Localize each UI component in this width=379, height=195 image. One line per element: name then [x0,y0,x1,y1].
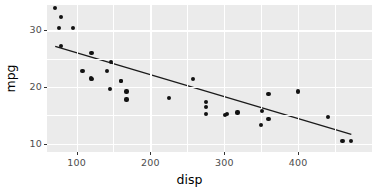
data-point [124,89,128,93]
x-tick-label: 300 [204,157,244,168]
y-tick-mark [44,30,47,31]
x-tick-mark [298,152,299,155]
x-tick-mark [77,152,78,155]
gridline-vertical-major [77,5,78,152]
gridline-vertical-major [150,5,151,152]
data-point [89,51,93,55]
data-point [260,109,264,113]
gridline-horizontal-minor [47,59,372,60]
gridline-vertical-major [224,5,225,152]
x-tick-label: 400 [278,157,318,168]
data-point [167,96,171,100]
y-tick-label: 30 [20,24,42,35]
x-tick-mark [150,152,151,155]
data-point [340,139,344,143]
regression-line-segment [55,46,351,134]
data-point [105,69,109,73]
data-point [59,44,63,48]
data-point [57,26,61,30]
x-tick-label: 100 [57,157,97,168]
y-tick-mark [44,87,47,88]
plot-panel [47,5,372,152]
y-tick-label: 20 [20,81,42,92]
gridline-horizontal-major [47,30,372,31]
data-point [124,97,128,101]
data-point [59,15,63,19]
data-point [266,117,270,121]
x-axis-title: disp [0,172,379,187]
gridline-horizontal-major [47,144,372,145]
gridline-vertical-major [298,5,299,152]
gridline-vertical-minor [335,5,336,152]
x-tick-mark [224,152,225,155]
gridline-vertical-minor [113,5,114,152]
data-point [80,69,84,73]
y-tick-mark [44,144,47,145]
gridline-vertical-minor [261,5,262,152]
gridline-vertical-minor [187,5,188,152]
y-axis-title: mpg [2,0,18,157]
data-point [235,110,239,114]
gridline-horizontal-major [47,87,372,88]
data-point [108,87,112,91]
data-point [326,115,330,119]
y-tick-label: 10 [20,138,42,149]
data-point [296,89,300,93]
scatter-plot-figure: mpg disp 102030100200300400 [0,0,379,195]
y-axis-title-text: mpg [3,64,18,92]
x-tick-label: 200 [130,157,170,168]
regression-line [47,5,372,152]
gridline-horizontal-minor [47,115,372,116]
